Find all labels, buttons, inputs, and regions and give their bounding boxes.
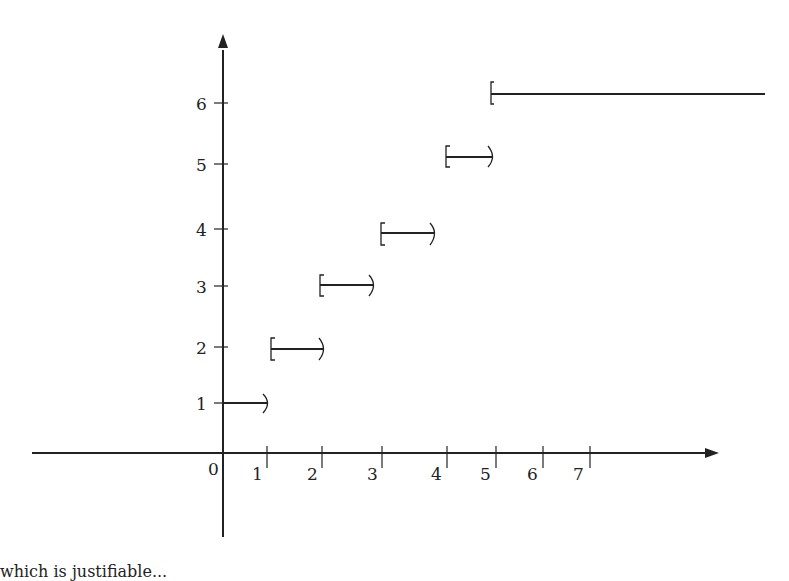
- x-label-1: 1: [252, 464, 263, 484]
- step-segment-4: [381, 223, 435, 245]
- y-label-3: 3: [196, 277, 207, 297]
- y-label-5: 5: [196, 155, 207, 175]
- x-axis-arrow-icon: [705, 448, 719, 458]
- caption-text: which is justifiable...: [0, 562, 167, 581]
- x-label-7: 7: [573, 464, 584, 484]
- x-label-3: 3: [367, 464, 378, 484]
- y-axis-arrow-icon: [218, 34, 228, 48]
- y-label-1: 1: [196, 394, 207, 414]
- y-label-2: 2: [196, 338, 207, 358]
- step-segment-6: [491, 82, 765, 104]
- x-label-5: 5: [480, 464, 491, 484]
- y-label-4: 4: [196, 220, 207, 240]
- step-segment-5: [446, 146, 493, 167]
- x-label-6: 6: [527, 464, 538, 484]
- step-segment-2: [271, 338, 324, 360]
- step-segment-1: [223, 394, 268, 413]
- y-label-6: 6: [196, 94, 207, 114]
- step-segment-3: [320, 275, 374, 296]
- x-label-origin: 0: [208, 459, 219, 479]
- x-label-4: 4: [431, 464, 442, 484]
- x-label-2: 2: [307, 464, 318, 484]
